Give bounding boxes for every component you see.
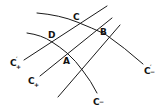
curve-label-c-plus: C + — [28, 76, 39, 88]
svg-text:−: − — [150, 68, 155, 75]
point-label-a: A — [63, 56, 70, 66]
curve-label-c-minus: C − — [93, 97, 104, 107]
svg-text:+: + — [16, 63, 21, 70]
curve-label-c-prime-minus: C ′ − — [144, 63, 155, 76]
curve-label-c-prime-plus: C ′ + — [10, 55, 21, 70]
svg-text:−: − — [99, 98, 104, 105]
point-label-d: D — [48, 30, 55, 40]
svg-text:+: + — [34, 81, 39, 88]
characteristics-diagram: C B D A C ′ + C + C ′ − C − — [0, 0, 165, 108]
point-label-c: C — [73, 12, 80, 22]
point-label-b: B — [100, 27, 107, 37]
svg-text:′: ′ — [16, 55, 18, 62]
